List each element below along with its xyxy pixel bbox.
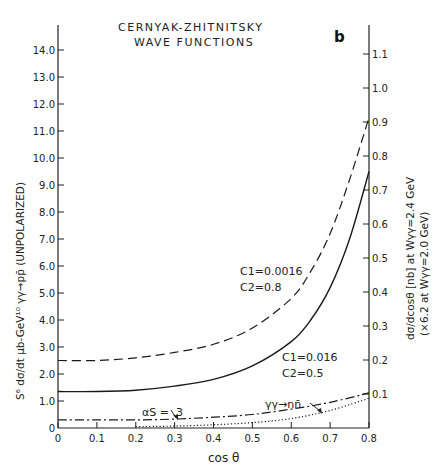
left-tick-label: 4.0 (39, 315, 55, 326)
dashed-label-c1: C1=0.0016 (240, 265, 302, 278)
right-tick-label: 0.1 (372, 389, 388, 400)
solid-label-c2: C2=0.5 (282, 367, 323, 380)
title-line-1: CERNYAK-ZHITNITSKY (118, 21, 263, 34)
right-tick-label: 0.7 (372, 185, 388, 196)
curves (58, 118, 369, 427)
left-tick-label: 14.0 (33, 45, 55, 56)
x-tick-label: 0.8 (361, 433, 377, 444)
left-tick-label: 12.0 (33, 99, 55, 110)
x-tick-label: 0.7 (322, 433, 338, 444)
left-tick-label: 9.0 (39, 180, 55, 191)
x-axis-label: cos θ (208, 451, 239, 465)
left-tick-label: 7.0 (39, 234, 55, 245)
left-tick-label: 13.0 (33, 72, 55, 83)
x-axis-ticks: 00.10.20.30.40.50.60.70.8 (55, 422, 377, 444)
solid-label-c1: C1=0.016 (282, 351, 337, 364)
label-alpha-s: αS = .3 (142, 406, 183, 420)
x-tick-label: 0.4 (206, 433, 222, 444)
right-tick-label: 0.4 (372, 287, 388, 298)
left-tick-label: 2.0 (39, 369, 55, 380)
x-tick-label: 0.5 (244, 433, 260, 444)
x-tick-label: 0.1 (89, 433, 105, 444)
right-tick-label: 0.8 (372, 151, 388, 162)
y-axis-label-right: dσ/dcosθ [nb] at Wγγ=2.4 GeV (404, 176, 416, 340)
curve-dashed (58, 118, 369, 361)
left-tick-label: 10.0 (33, 153, 55, 164)
right-tick-label: 0.2 (372, 355, 388, 366)
label-dashed-curve: C1=0.0016 C2=0.8 (240, 265, 302, 294)
left-tick-label: 5.0 (39, 288, 55, 299)
panel-label: b (334, 28, 345, 46)
right-tick-label: 0.5 (372, 253, 388, 264)
right-tick-label: 1.1 (372, 49, 388, 60)
dashed-label-c2: C2=0.8 (240, 281, 281, 294)
chart: CERNYAK-ZHITNITSKY WAVE FUNCTIONS b 01.0… (0, 0, 444, 474)
nn-bar-label: γγ→nn̄ (265, 398, 301, 411)
label-solid-curve: C1=0.016 C2=0.5 (282, 351, 337, 380)
x-tick-label: 0.3 (167, 433, 183, 444)
right-axis-ticks: 0.10.20.30.40.50.60.70.80.91.01.1 (363, 49, 388, 400)
left-axis-ticks: 01.02.03.04.05.06.07.08.09.010.011.012.0… (33, 45, 64, 434)
right-tick-label: 0.9 (372, 117, 388, 128)
curve-dashdot (58, 393, 369, 420)
right-tick-label: 0.3 (372, 321, 388, 332)
y-axis-label-left: S⁶ dσ/dt μb-GeV¹⁰ γγ→pp̄ (UNPOLARIZED) (14, 182, 26, 400)
left-tick-label: 11.0 (33, 126, 55, 137)
right-tick-label: 0.6 (372, 219, 388, 230)
label-nn-bar: γγ→nn̄ (265, 398, 322, 414)
left-tick-label: 1.0 (39, 396, 55, 407)
x-tick-label: 0.6 (283, 433, 299, 444)
left-tick-label: 6.0 (39, 261, 55, 272)
left-tick-label: 3.0 (39, 342, 55, 353)
x-tick-label: 0 (55, 433, 61, 444)
x-tick-label: 0.2 (128, 433, 144, 444)
left-tick-label: 8.0 (39, 207, 55, 218)
chart-title: CERNYAK-ZHITNITSKY WAVE FUNCTIONS (118, 21, 263, 49)
y-axis-label-right-2: (×6.2 at Wγγ=2.0 GeV) (418, 212, 430, 336)
right-tick-label: 1.0 (372, 83, 388, 94)
title-line-2: WAVE FUNCTIONS (134, 36, 254, 49)
